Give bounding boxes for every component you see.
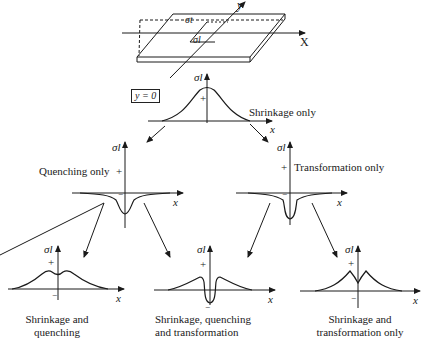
middle-right-x-label: x [337,196,342,208]
middle-left-y-label: σl [112,141,120,153]
sigma-t-label: σt [185,14,193,26]
bottom-left-caption: Shrinkage and quenching [12,313,102,339]
bottom-right-plot [300,246,420,308]
middle-left-plot [0,142,183,257]
middle-right-sign-pos: + [281,161,287,173]
bottom-right-sign-neg: − [351,292,356,304]
bottom-center-x-label: x [268,293,273,305]
section-label: y = 0 [131,89,160,103]
bottom-left-x-label: x [116,292,121,304]
bottom-center-y-label: σl [197,243,205,255]
bottom-left-caption-line2: quenching [12,326,102,339]
bottom-left-sign-neg: − [52,289,57,301]
bottom-center-caption-line2: and transformation [155,326,275,339]
middle-left-caption: Quenching only [39,165,110,177]
bottom-center-caption: Shrinkage, quenching and transformation [155,313,275,339]
sigma-l-label: σl [193,34,201,46]
top-plot-y-label: σl [194,71,202,83]
bottom-center-caption-line1: Shrinkage, quenching [155,313,275,326]
bottom-left-plot [8,246,124,300]
middle-right-y-label: σl [277,141,285,153]
bottom-left-y-label: σl [44,243,52,255]
bottom-right-caption: Shrinkage and transformation only [310,313,410,339]
middle-left-sign-neg: − [118,188,123,200]
top-plot-x-label: x [270,123,275,135]
bottom-left-caption-line1: Shrinkage and [12,313,102,326]
bottom-center-sign-pos: + [200,258,206,270]
bottom-right-sign-pos: + [348,257,354,269]
middle-right-caption: Transformation only [294,161,384,173]
bottom-right-x-label: x [413,294,418,306]
bottom-center-plot [154,246,275,305]
middle-right-plot [236,142,347,257]
middle-left-sign-pos: + [116,165,122,177]
top-plot-sign: + [200,92,206,104]
bottom-left-sign-pos: + [48,256,54,268]
plate-illustration [122,2,305,78]
bottom-right-caption-line1: Shrinkage and [310,313,410,326]
top-plot-caption: Shrinkage only [249,106,316,118]
middle-right-sign-neg: − [282,188,287,200]
bottom-right-caption-line2: transformation only [310,326,410,339]
x-axis-label: X [300,36,309,48]
y-axis-label: y [237,0,242,11]
bottom-right-y-label: σl [345,243,353,255]
bottom-center-sign-neg: − [205,301,210,313]
middle-left-x-label: x [173,196,178,208]
